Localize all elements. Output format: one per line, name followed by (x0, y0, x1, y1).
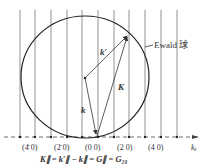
equation: K∥ = k′∥ − k∥ = G∥ = G₂₀ (39, 154, 127, 164)
rod-label: (2̄ 0) (54, 143, 70, 152)
rod-label: (4 0) (148, 143, 164, 152)
rod-label: (2 0) (117, 143, 133, 152)
k-prime-label: k′ (100, 47, 108, 57)
axis-label: kₓ (191, 143, 197, 152)
K-label: K (117, 82, 125, 92)
k-label: k (81, 105, 86, 115)
ewald-leader (145, 45, 153, 47)
rod-label: (0 0) (85, 143, 101, 152)
ewald-diagram: Ewald 球 k′ k K (4̄ 0) (2̄ 0) (0 0) (2 0)… (0, 0, 206, 168)
k-vector (85, 78, 96, 134)
rod-label: (4̄ 0) (22, 143, 38, 152)
ewald-label: Ewald 球 (154, 39, 188, 50)
lattice-rods (20, 10, 177, 137)
